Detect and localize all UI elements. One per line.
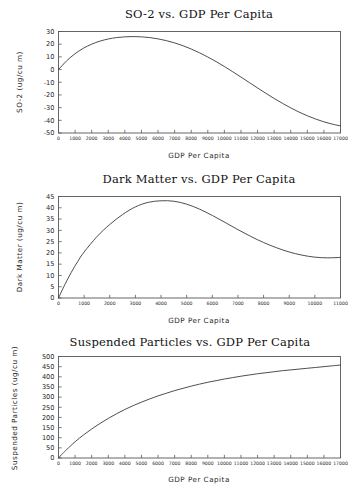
x-tick-label: 4000 (155, 301, 167, 306)
dark-matter-x-ticks: 0100020003000400050006000700080009000100… (57, 295, 348, 306)
y-tick-label: 5 (50, 283, 54, 291)
y-tick-label: 45 (46, 193, 54, 201)
y-tick-label: 20 (46, 40, 54, 48)
x-tick-label: 15000 (300, 136, 315, 141)
y-tick-label: 0 (50, 294, 54, 302)
y-tick-label: -20 (44, 91, 55, 99)
x-tick-label: 16000 (317, 461, 332, 466)
y-tick-label: 20 (46, 249, 54, 257)
x-tick-label: 3000 (102, 461, 114, 466)
suspended-particles-y-axis-label: Suspended Particles (ug/cu m) (10, 346, 19, 470)
x-tick-label: 4000 (119, 136, 131, 141)
so2-x-axis-label: GDP Per Capita (168, 151, 230, 160)
x-tick-label: 2000 (104, 301, 116, 306)
y-tick-label: 450 (42, 363, 55, 371)
y-tick-label: 500 (42, 353, 55, 361)
x-tick-label: 11000 (234, 461, 249, 466)
chart-page: SO-2 vs. GDP Per Capita GDP Per Capita S… (0, 0, 364, 489)
x-tick-label: 13000 (267, 461, 282, 466)
y-tick-label: -40 (44, 117, 55, 125)
so2-chart-title: SO-2 vs. GDP Per Capita (125, 7, 273, 21)
dark-matter-y-axis-label: Dark Matter (ug/cu m) (15, 202, 24, 293)
x-tick-label: 13000 (267, 136, 282, 141)
dark-matter-plot-frame (59, 197, 341, 299)
so2-chart-svg: SO-2 vs. GDP Per Capita GDP Per Capita S… (0, 0, 364, 165)
y-tick-label: 150 (42, 424, 55, 432)
x-tick-label: 10000 (217, 136, 232, 141)
x-tick-label: 9000 (283, 301, 295, 306)
x-tick-label: 17000 (333, 461, 348, 466)
y-tick-label: -10 (44, 79, 55, 87)
x-tick-label: 12000 (250, 136, 265, 141)
x-tick-label: 7000 (232, 301, 244, 306)
y-tick-label: 25 (46, 238, 54, 246)
y-tick-label: 400 (42, 373, 55, 381)
x-tick-label: 6000 (152, 136, 164, 141)
x-tick-label: 1000 (78, 301, 90, 306)
chart-panel-dark-matter: Dark Matter vs. GDP Per Capita GDP Per C… (0, 165, 364, 330)
x-tick-label: 1000 (69, 136, 81, 141)
suspended-particles-chart-svg: Suspended Particles vs. GDP Per Capita G… (0, 330, 364, 489)
x-tick-label: 8000 (185, 461, 197, 466)
x-tick-label: 10000 (217, 461, 232, 466)
dark-matter-x-axis-label: GDP Per Capita (168, 316, 230, 325)
so2-x-ticks: 0100020003000400050006000700080009000100… (57, 130, 348, 141)
x-tick-label: 0 (57, 301, 60, 306)
x-tick-label: 5000 (181, 301, 193, 306)
x-tick-label: 0 (57, 136, 60, 141)
y-tick-label: 0 (50, 66, 54, 74)
y-tick-label: -30 (44, 104, 55, 112)
y-tick-label: 40 (46, 204, 54, 212)
x-tick-label: 4000 (119, 461, 131, 466)
suspended-particles-plot-frame (59, 357, 341, 459)
x-tick-label: 10000 (308, 301, 323, 306)
x-tick-label: 17000 (333, 136, 348, 141)
x-tick-label: 8000 (185, 136, 197, 141)
x-tick-label: 2000 (86, 136, 98, 141)
y-tick-label: 300 (42, 393, 55, 401)
x-tick-label: 15000 (300, 461, 315, 466)
x-tick-label: 12000 (250, 461, 265, 466)
y-tick-label: 30 (46, 28, 54, 36)
y-tick-label: 35 (46, 215, 54, 223)
x-tick-label: 0 (57, 461, 60, 466)
x-tick-label: 5000 (136, 461, 148, 466)
dark-matter-chart-svg: Dark Matter vs. GDP Per Capita GDP Per C… (0, 165, 364, 330)
y-tick-label: 50 (46, 444, 54, 452)
y-tick-label: 15 (46, 260, 54, 268)
y-tick-label: 100 (42, 434, 55, 442)
x-tick-label: 9000 (202, 136, 214, 141)
x-tick-label: 14000 (283, 136, 298, 141)
suspended-particles-x-axis-label: GDP Per Capita (168, 475, 230, 484)
chart-panel-so2: SO-2 vs. GDP Per Capita GDP Per Capita S… (0, 0, 364, 165)
x-tick-label: 8000 (258, 301, 270, 306)
so2-y-ticks: -50-40-30-20-100102030 (44, 28, 62, 138)
y-tick-label: 350 (42, 383, 55, 391)
x-tick-label: 7000 (169, 461, 181, 466)
x-tick-label: 16000 (317, 136, 332, 141)
so2-y-axis-label: SO-2 (ug/cu m) (15, 51, 24, 113)
suspended-particles-x-ticks: 0100020003000400050006000700080009000100… (57, 455, 348, 466)
so2-plot-frame (59, 32, 341, 134)
y-tick-label: 0 (50, 454, 54, 462)
x-tick-label: 3000 (102, 136, 114, 141)
y-tick-label: 10 (46, 53, 54, 61)
x-tick-label: 1000 (69, 461, 81, 466)
y-tick-label: 250 (42, 404, 55, 412)
x-tick-label: 2000 (86, 461, 98, 466)
dark-matter-data-curve (59, 201, 341, 298)
x-tick-label: 6000 (206, 301, 218, 306)
x-tick-label: 7000 (169, 136, 181, 141)
chart-panel-suspended-particles: Suspended Particles vs. GDP Per Capita G… (0, 330, 364, 489)
suspended-particles-chart-title: Suspended Particles vs. GDP Per Capita (70, 335, 311, 349)
suspended-particles-data-curve (59, 365, 341, 458)
x-tick-label: 11000 (333, 301, 348, 306)
x-tick-label: 11000 (234, 136, 249, 141)
x-tick-label: 14000 (283, 461, 298, 466)
y-tick-label: 30 (46, 227, 54, 235)
y-tick-label: 10 (46, 272, 54, 280)
dark-matter-y-ticks: 051015202530354045 (46, 193, 62, 302)
x-tick-label: 3000 (130, 301, 142, 306)
so2-data-curve (59, 37, 341, 126)
y-tick-label: -50 (44, 129, 55, 137)
